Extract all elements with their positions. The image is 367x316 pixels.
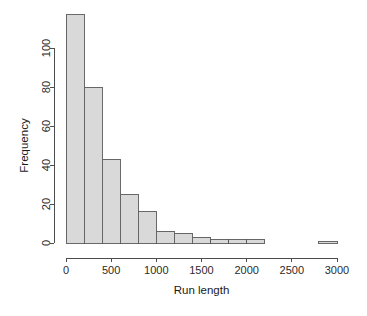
x-axis-tick-label: 2500 — [280, 264, 304, 276]
x-axis-tick-label: 1000 — [144, 264, 168, 276]
y-axis-tick-label: 80 — [40, 81, 52, 93]
x-axis-tick-label: 0 — [63, 264, 69, 276]
y-axis-tick-label: 0 — [40, 240, 52, 246]
y-axis-title: Frequency — [18, 118, 30, 173]
histogram-bar — [102, 159, 120, 243]
y-axis-tick-label: 40 — [40, 159, 52, 171]
chart-canvas: 020406080100050010001500200025003000Run … — [0, 0, 367, 316]
x-axis-title: Run length — [174, 284, 230, 296]
x-axis-tick-label: 1500 — [189, 264, 213, 276]
histogram-bar — [84, 87, 102, 243]
x-axis-tick-label: 2000 — [234, 264, 258, 276]
y-axis-tick-label: 60 — [40, 120, 52, 132]
histogram-bar — [247, 239, 265, 243]
histogram-bar — [319, 241, 337, 243]
histogram-bar — [156, 231, 174, 243]
histogram-bar — [174, 233, 192, 243]
histogram-bar — [120, 194, 138, 243]
plot-area: 020406080100050010001500200025003000Run … — [0, 0, 367, 316]
histogram-bar — [211, 239, 229, 243]
histogram-bar — [192, 237, 210, 243]
y-axis-tick-label: 100 — [40, 39, 52, 57]
bars-group — [66, 15, 337, 243]
histogram-bar — [66, 15, 84, 243]
histogram-bar — [138, 212, 156, 243]
histogram-figure: 020406080100050010001500200025003000Run … — [0, 0, 367, 316]
histogram-bar — [229, 239, 247, 243]
x-axis-tick-label: 3000 — [325, 264, 349, 276]
x-axis: 050010001500200025003000 — [63, 258, 349, 276]
y-axis: 020406080100 — [40, 39, 54, 246]
y-axis-tick-label: 20 — [40, 198, 52, 210]
x-axis-tick-label: 500 — [102, 264, 120, 276]
